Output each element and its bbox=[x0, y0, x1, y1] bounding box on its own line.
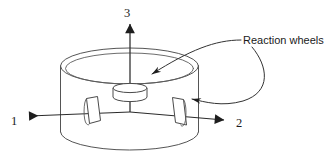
reaction-wheel-axis-2 bbox=[173, 98, 187, 127]
axis-1-label: 1 bbox=[11, 114, 17, 128]
axis-1-arrow bbox=[29, 112, 130, 116]
diagram-canvas: 3 1 2 bbox=[0, 0, 334, 163]
wheel-3-top-face bbox=[113, 83, 147, 92]
reaction-wheel-diagram: 3 1 2 bbox=[0, 0, 334, 163]
axis-1-group: 1 bbox=[11, 112, 130, 128]
cylinder-bottom-arc bbox=[61, 132, 199, 150]
reaction-wheel-axis-1 bbox=[84, 97, 100, 125]
callout-label-reaction-wheels: Reaction wheels bbox=[243, 34, 324, 46]
axis-2-label: 2 bbox=[236, 116, 242, 130]
axis-3-label: 3 bbox=[124, 6, 130, 20]
leader-line-to-wheel-2 bbox=[192, 47, 264, 104]
callout-leaders bbox=[152, 40, 264, 104]
leader-line-to-wheel-3 bbox=[152, 40, 241, 74]
reaction-wheel-axis-3 bbox=[113, 83, 147, 101]
wheel-1-rim bbox=[87, 97, 101, 124]
